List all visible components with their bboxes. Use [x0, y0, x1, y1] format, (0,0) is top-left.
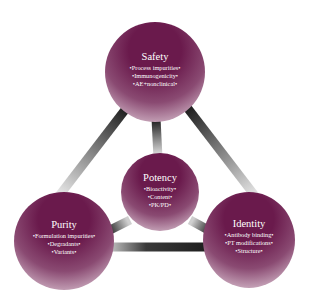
edge-safety-purity: [52, 106, 128, 205]
node-identity: Identity •Antibody binding• •PT modifica…: [203, 192, 295, 288]
node-title: Safety: [142, 51, 169, 63]
node-item: •Variants•: [51, 248, 76, 256]
node-item: •Antibody binding•: [224, 231, 273, 239]
node-item: •Immunogenicity•: [132, 72, 178, 80]
node-item: •Process impurities•: [130, 64, 181, 72]
node-purity: Purity •Formulation impurities• •Degrada…: [14, 192, 114, 290]
node-title: Purity: [51, 219, 77, 231]
node-item: •PT modifications•: [225, 239, 273, 247]
node-title: Identity: [233, 218, 266, 230]
node-potency: Potency •Bioactivity• •Content• •PK/PD•: [121, 153, 199, 231]
node-item: •Structure•: [235, 247, 263, 255]
node-item: •Content•: [148, 193, 172, 201]
node-item: •AE+nonclinical•: [133, 80, 177, 88]
node-safety: Safety •Process impurities• •Immunogenic…: [105, 22, 205, 122]
node-title: Potency: [143, 172, 177, 184]
edge-safety-potency: [156, 118, 158, 158]
node-item: •Degradants•: [47, 240, 80, 248]
node-item: •Formulation impurities•: [33, 232, 96, 240]
node-item: •PK/PD•: [149, 201, 171, 209]
node-item: •Bioactivity•: [144, 185, 176, 193]
